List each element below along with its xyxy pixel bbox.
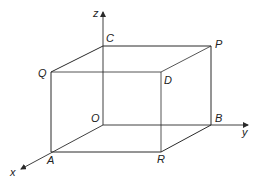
vertex-label-A: A [46, 154, 54, 166]
cuboid-diagram: z y x C P Q D O B A R [0, 0, 255, 182]
edge-QC [51, 46, 103, 72]
vertex-label-B: B [215, 112, 222, 124]
vertex-label-D: D [164, 74, 172, 86]
vertex-label-Q: Q [38, 67, 47, 79]
x-axis [21, 125, 103, 169]
x-axis-label: x [9, 166, 16, 178]
vertex-label-P: P [215, 38, 223, 50]
vertex-label-R: R [157, 153, 165, 165]
vertex-label-C: C [106, 32, 114, 44]
cuboid-edges [51, 46, 211, 152]
edge-RB [161, 125, 211, 152]
vertex-label-O: O [91, 112, 100, 124]
y-axis-label: y [241, 126, 249, 138]
edge-PD [161, 46, 211, 72]
z-axis-label: z [92, 7, 99, 19]
